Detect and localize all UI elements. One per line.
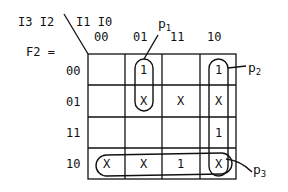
cell: X xyxy=(200,148,237,179)
function-label: F2 = xyxy=(26,46,55,58)
group-label-p3: p3 xyxy=(253,164,266,180)
row-label-00: 00 xyxy=(66,65,80,77)
cell xyxy=(162,54,199,85)
group-label-p2: p2 xyxy=(248,62,261,78)
cell: 1 xyxy=(200,117,237,148)
col-label-11: 11 xyxy=(170,31,184,43)
cell: X xyxy=(200,85,237,116)
cell xyxy=(125,117,162,148)
row-variables-label: I3 I2 xyxy=(18,16,54,28)
col-label-00: 00 xyxy=(94,31,108,43)
cell: 1 xyxy=(125,54,162,85)
col-label-01: 01 xyxy=(133,31,147,43)
cell: X xyxy=(162,85,199,116)
row-label-01: 01 xyxy=(66,96,80,108)
cell xyxy=(88,85,125,116)
cell: 1 xyxy=(162,148,199,179)
cell: 1 xyxy=(200,54,237,85)
cell: X xyxy=(88,148,125,179)
col-label-10: 10 xyxy=(207,31,221,43)
row-label-11: 11 xyxy=(66,127,80,139)
cell xyxy=(162,117,199,148)
cell: X xyxy=(125,148,162,179)
column-variables-label: I1 I0 xyxy=(76,16,112,28)
cell xyxy=(88,117,125,148)
group-label-p1: p1 xyxy=(158,18,171,34)
cell xyxy=(88,54,125,85)
cell: X xyxy=(125,85,162,116)
row-label-10: 10 xyxy=(66,158,80,170)
